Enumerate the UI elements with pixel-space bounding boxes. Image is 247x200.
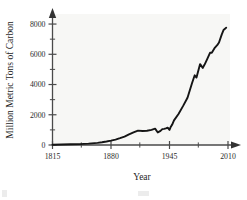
x-axis-title: Year [133,172,151,182]
scan-artifact-left [2,190,7,197]
svg-text:4000: 4000 [30,80,46,89]
svg-text:6000: 6000 [30,50,46,59]
svg-text:8000: 8000 [30,20,46,29]
y-axis-title: Million Metric Tons of Carbon [5,21,15,139]
chart-figure: 02000400060008000 1815188019452010 Milli… [0,0,247,200]
svg-text:1815: 1815 [45,152,61,161]
svg-text:2010: 2010 [220,152,236,161]
scan-artifact-center [138,191,149,196]
x-axis-tick-labels: 1815188019452010 [45,152,236,161]
x-axis-arrowhead [231,141,241,148]
svg-text:2000: 2000 [30,111,46,120]
y-axis-arrowhead [49,8,56,18]
emissions-line-chart: 02000400060008000 1815188019452010 Milli… [0,0,247,200]
svg-text:1945: 1945 [162,152,178,161]
svg-text:0: 0 [42,141,46,150]
plot-area-background [52,14,230,145]
y-axis-tick-labels: 02000400060008000 [30,20,46,150]
svg-text:1880: 1880 [103,152,119,161]
